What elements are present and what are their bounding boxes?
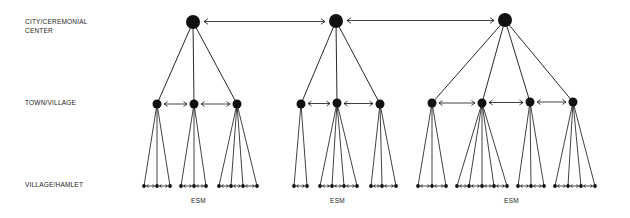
hamlet-node: [566, 184, 570, 188]
hamlet-node: [529, 184, 533, 188]
town-hamlet-link: [380, 104, 396, 186]
hamlet-node: [241, 184, 245, 188]
city-town-link: [336, 21, 337, 103]
town-hamlet-link: [573, 102, 595, 186]
hamlet-node: [142, 184, 146, 188]
city-node: [329, 14, 343, 28]
town-node: [526, 98, 535, 107]
hamlet-node: [492, 184, 496, 188]
hamlet-node: [467, 184, 471, 188]
hamlet-node: [480, 184, 484, 188]
hamlet-node: [455, 184, 459, 188]
esm-label: ESM: [191, 197, 206, 204]
hamlet-node: [542, 184, 546, 188]
town-node: [153, 100, 162, 109]
hamlet-node: [155, 184, 159, 188]
town-hamlet-link: [194, 104, 206, 186]
town-node: [478, 99, 487, 108]
city-town-link: [336, 21, 380, 104]
hamlet-node: [229, 184, 233, 188]
hamlet-node: [168, 184, 172, 188]
hamlet-node: [292, 184, 296, 188]
city-town-link: [157, 22, 193, 104]
town-node: [569, 98, 578, 107]
hamlet-node: [553, 184, 557, 188]
hamlet-node: [444, 184, 448, 188]
town-hamlet-link: [144, 104, 157, 186]
town-hamlet-link: [530, 102, 544, 186]
town-hamlet-link: [432, 103, 446, 186]
city-town-link: [432, 20, 505, 103]
town-node: [233, 100, 242, 109]
settlement-hierarchy-diagram: [0, 0, 630, 218]
town-hamlet-link: [518, 102, 530, 186]
city-town-link: [505, 20, 573, 102]
town-node: [428, 99, 437, 108]
hamlet-node: [342, 184, 346, 188]
town-node: [376, 100, 385, 109]
hamlet-node: [255, 184, 259, 188]
hamlet-node: [593, 184, 597, 188]
town-hamlet-link: [337, 103, 344, 186]
city-node: [498, 13, 512, 27]
hamlet-node: [192, 184, 196, 188]
hamlet-node: [179, 184, 183, 188]
esm-label: ESM: [504, 197, 519, 204]
city-town-link: [301, 21, 336, 104]
town-hamlet-link: [371, 104, 380, 186]
town-node: [333, 99, 342, 108]
town-hamlet-link: [301, 104, 307, 186]
hamlet-node: [394, 184, 398, 188]
town-hamlet-link: [482, 103, 507, 186]
hamlet-node: [204, 184, 208, 188]
town-hamlet-link: [157, 104, 170, 186]
hamlet-node: [380, 184, 384, 188]
hamlet-node: [516, 184, 520, 188]
hamlet-node: [430, 184, 434, 188]
town-hamlet-link: [530, 102, 531, 186]
hamlet-node: [305, 184, 309, 188]
town-hamlet-link: [380, 104, 382, 186]
city-town-link: [193, 22, 194, 104]
town-hamlet-link: [418, 103, 432, 186]
town-hamlet-link: [457, 103, 482, 186]
hamlet-node: [505, 184, 509, 188]
town-node: [297, 100, 306, 109]
hamlet-node: [369, 184, 373, 188]
esm-label: ESM: [330, 197, 345, 204]
town-node: [190, 100, 199, 109]
town-hamlet-link: [482, 103, 494, 186]
town-hamlet-link: [337, 103, 357, 186]
hamlet-node: [318, 184, 322, 188]
hamlet-node: [330, 184, 334, 188]
town-hamlet-link: [294, 104, 301, 186]
city-town-link: [505, 20, 530, 102]
hamlet-node: [416, 184, 420, 188]
hamlet-node: [217, 184, 221, 188]
city-node: [186, 15, 200, 29]
hamlet-node: [579, 184, 583, 188]
town-hamlet-link: [469, 103, 482, 186]
hamlet-node: [355, 184, 359, 188]
town-hamlet-link: [573, 102, 581, 186]
city-town-link: [193, 22, 237, 104]
settlement-nodes: [142, 13, 597, 188]
town-hamlet-link: [181, 104, 194, 186]
